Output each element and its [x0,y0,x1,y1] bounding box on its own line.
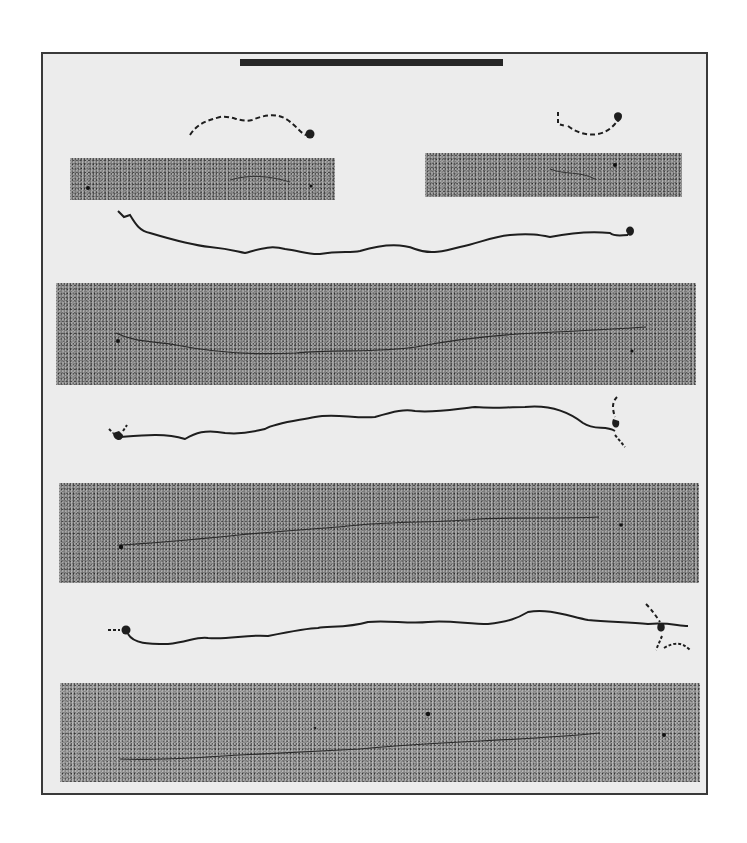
tracing-top-right [552,108,632,140]
micrograph-top-left [70,158,335,200]
micrograph-row-2 [59,483,699,583]
end-knob-icon [612,419,619,428]
micrograph-top-right [425,153,682,197]
tracing-row-2 [105,395,635,455]
end-knob-icon [306,130,315,139]
micrograph-row-3 [60,683,700,782]
end-knob-icon [113,431,123,440]
tracing-row-1 [110,205,650,265]
end-knob-icon [657,624,664,632]
micrograph-row-1 [56,283,696,385]
scale-bar [240,59,503,66]
tracing-row-3 [108,600,698,680]
end-knob-icon [614,112,622,122]
tracing-top-left [180,105,320,145]
end-knob-icon [122,626,131,635]
